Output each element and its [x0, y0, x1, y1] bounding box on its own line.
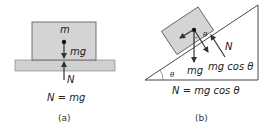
weight-label: mg	[70, 46, 86, 57]
panel-b: θ θ N mg mg cos θ N = mg cos θ (b)	[145, 5, 258, 123]
caption-b: (b)	[195, 113, 208, 123]
normal-label-b: N	[225, 41, 233, 52]
normal-label: N	[67, 74, 75, 85]
block-angle-label: θ	[203, 31, 208, 39]
component-label: mg cos θ	[208, 61, 253, 72]
base-angle-label: θ	[170, 71, 175, 79]
diagram-canvas: m mg N N = mg (a) θ θ N mg mg cos θ N = …	[0, 0, 273, 130]
panel-a: m mg N N = mg (a)	[15, 22, 115, 123]
equation-b: N = mg cos θ	[172, 85, 240, 96]
mass-label: m	[60, 24, 70, 35]
normal-force-diagram: m mg N N = mg (a) θ θ N mg mg cos θ N = …	[0, 0, 273, 130]
weight-label-b: mg	[187, 65, 203, 76]
equation-a: N = mg	[47, 92, 85, 103]
caption-a: (a)	[58, 113, 71, 123]
center-of-mass-dot	[62, 40, 66, 44]
ground-surface	[15, 60, 115, 71]
